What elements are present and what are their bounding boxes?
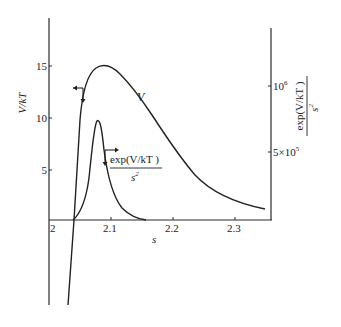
- right-tick-label: 106: [273, 79, 288, 92]
- svg-text:s2: s2: [131, 170, 139, 183]
- left-y-axis-label: V/kT: [16, 92, 28, 114]
- x-tick-label: 2: [50, 222, 56, 234]
- svg-text:exp(V/kT ): exp(V/kT ): [110, 153, 159, 166]
- x-tick-label: 2.1: [103, 222, 117, 234]
- chart: 2 2.1 2.2 2.3 s 5 10 15 V/kT 5×105 106 e…: [0, 0, 341, 327]
- v-curve: [68, 66, 265, 305]
- y-tick-label: 10: [36, 112, 48, 124]
- x-tick-label: 2.2: [165, 222, 179, 234]
- y-tick-label: 5: [42, 164, 48, 176]
- x-tick-label: 2.3: [227, 222, 241, 234]
- right-y-axis-label: exp(V/kT ) s2: [293, 76, 320, 136]
- v-curve-label: V: [137, 90, 146, 104]
- right-tick-label: 5×105: [273, 145, 300, 158]
- svg-text:s2: s2: [307, 104, 320, 112]
- svg-text:exp(V/kT ): exp(V/kT ): [293, 81, 306, 130]
- x-axis-label: s: [152, 233, 156, 245]
- y-tick-label: 15: [36, 60, 48, 72]
- exp-curve-label: exp(V/kT ) s2: [110, 153, 162, 183]
